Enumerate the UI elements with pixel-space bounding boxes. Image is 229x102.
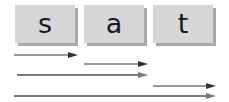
arrow-s (14, 52, 78, 58)
blending-arrows (0, 0, 229, 102)
arrow-sat (14, 93, 216, 99)
arrow-sa (17, 72, 148, 78)
arrow-t (153, 83, 216, 89)
arrow-a (84, 61, 148, 67)
